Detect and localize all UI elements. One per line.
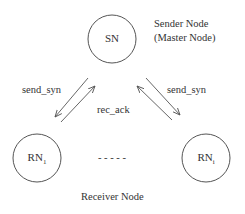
send-syn-label-left: send_syn	[22, 84, 61, 96]
receiver-node-1-label: RN1	[17, 152, 57, 166]
sender-node-label: SN	[92, 33, 132, 44]
rec-ack-label: rec_ack	[97, 104, 130, 116]
receiver-node-1-text: RN	[28, 151, 43, 163]
master-node-caption: (Master Node)	[154, 32, 216, 44]
receiver-node-i-subscript: i	[213, 158, 215, 166]
ellipsis-dashes: - - - - -	[98, 152, 126, 164]
receiver-node-1-subscript: 1	[43, 158, 47, 166]
receiver-node-i-text: RN	[197, 151, 212, 163]
sync-protocol-diagram: SN RN1 RNi Sender Node (Master Node) sen…	[0, 0, 245, 214]
sender-node-caption: Sender Node	[154, 18, 209, 30]
sender-node-text: SN	[105, 32, 119, 44]
receiver-node-i-label: RNi	[186, 152, 226, 166]
receiver-node-caption: Receiver Node	[81, 191, 144, 203]
send-syn-label-right: send_syn	[167, 84, 206, 96]
